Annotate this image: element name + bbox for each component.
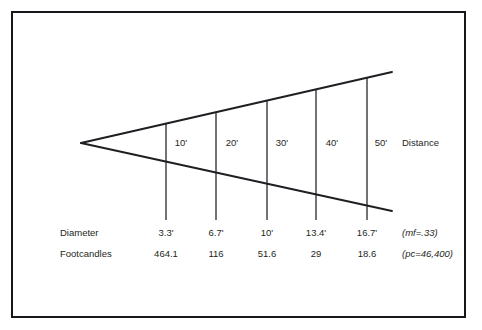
footcandles-value-30: 51.6 — [258, 249, 277, 259]
diameter-row-label: Diameter — [60, 228, 99, 238]
diameter-value-50: 16.7' — [357, 228, 377, 238]
distance-axis-label: Distance — [402, 138, 439, 148]
maintenance-factor-note: (mf=.33) — [402, 228, 438, 238]
diameter-value-40: 13.4' — [306, 228, 326, 238]
distance-label-50: 50' — [375, 138, 387, 148]
footcandles-value-10: 464.1 — [154, 249, 178, 259]
cone-lower-edge — [81, 143, 392, 211]
footcandles-value-40: 29 — [311, 249, 322, 259]
figure-root: 10' 20' 30' 40' 50' Distance Diameter 3.… — [0, 0, 482, 330]
diameter-value-10: 3.3' — [158, 228, 173, 238]
diameter-value-20: 6.7' — [208, 228, 223, 238]
peak-candlepower-note: (pc=46,400) — [402, 249, 453, 259]
footcandles-row-label: Footcandles — [60, 249, 112, 259]
distance-label-20: 20' — [226, 138, 238, 148]
footcandles-value-20: 116 — [208, 249, 223, 259]
diameter-value-30: 10' — [261, 228, 273, 238]
distance-label-30: 30' — [276, 138, 288, 148]
distance-label-40: 40' — [326, 138, 338, 148]
beam-diagram-svg — [0, 0, 482, 330]
footcandles-value-50: 18.6 — [358, 249, 377, 259]
cone-upper-edge — [81, 72, 392, 143]
distance-label-10: 10' — [175, 138, 187, 148]
